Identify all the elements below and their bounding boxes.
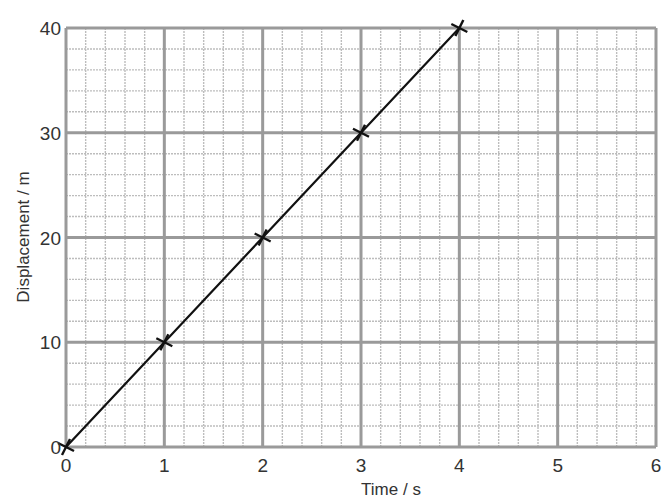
svg-text:0: 0 [50, 437, 61, 458]
svg-text:20: 20 [40, 228, 61, 249]
x-axis-ticks: 0123456 [61, 455, 662, 476]
y-axis-label: Displacement / m [14, 171, 33, 302]
x-axis-label: Time / s [361, 480, 421, 499]
svg-text:2: 2 [257, 455, 268, 476]
svg-text:30: 30 [40, 123, 61, 144]
y-axis-ticks: 010203040 [40, 18, 61, 458]
svg-text:10: 10 [40, 332, 61, 353]
svg-text:3: 3 [356, 455, 367, 476]
svg-text:0: 0 [61, 455, 72, 476]
line-chart: 0123456 010203040 Time / s Displacement … [0, 0, 663, 500]
svg-text:6: 6 [651, 455, 662, 476]
svg-text:5: 5 [552, 455, 563, 476]
svg-text:40: 40 [40, 18, 61, 39]
svg-text:4: 4 [454, 455, 465, 476]
svg-text:1: 1 [159, 455, 170, 476]
